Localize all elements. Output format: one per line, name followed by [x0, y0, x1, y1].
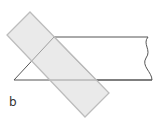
bar-break-line — [145, 37, 152, 80]
figure-label: b — [9, 96, 17, 108]
diagram-canvas — [0, 0, 159, 129]
translucent-rectangle — [7, 12, 109, 117]
